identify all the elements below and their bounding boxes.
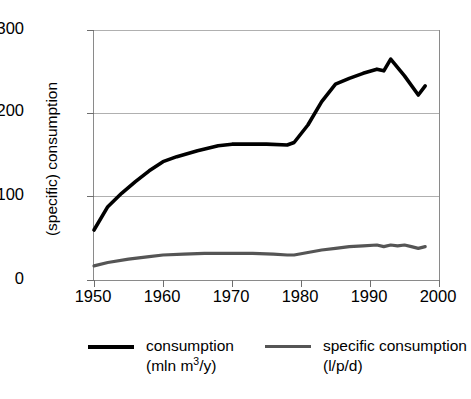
x-tick-label-1980: 1980 — [270, 288, 330, 305]
x-tick-1950 — [94, 280, 95, 287]
y-tick-label-0: 0 — [0, 270, 24, 286]
y-tick-label-300: 300 — [0, 20, 24, 36]
x-tick-label-1970: 1970 — [201, 288, 261, 305]
legend-units-pre-2: (l/p/d) — [323, 357, 363, 374]
x-tick-label-1990: 1990 — [339, 288, 399, 305]
line-specific-consumption — [94, 245, 425, 266]
x-tick-label-2000: 2000 — [408, 288, 468, 305]
x-tick-1960 — [163, 280, 164, 287]
y-tick-label-100: 100 — [0, 186, 24, 202]
legend-label-specific-consumption: specific consumption (l/p/d) — [323, 336, 467, 376]
y-tick-label-200: 200 — [0, 102, 24, 118]
x-tick-label-1950: 1950 — [63, 288, 123, 305]
series-lines — [94, 30, 439, 280]
legend-label-consumption-line2: (mln m3/y) — [146, 356, 234, 376]
y-tick-100 — [87, 196, 94, 197]
x-axis-line — [94, 280, 439, 281]
y-tick-200 — [87, 113, 94, 114]
x-tick-1980 — [301, 280, 302, 287]
chart-legend: consumption (mln m3/y) specific consumpt… — [0, 336, 471, 394]
x-tick-1990 — [370, 280, 371, 287]
legend-label-consumption-line1: consumption — [146, 336, 234, 356]
y-tick-300 — [87, 30, 94, 31]
y-tick-0 — [87, 280, 94, 281]
x-tick-2000 — [439, 280, 440, 287]
chart-figure: (specific) consumption 300 200 100 0 195… — [0, 0, 471, 399]
line-consumption — [94, 59, 425, 230]
legend-swatch-specific-consumption — [265, 345, 311, 348]
y-axis-title: (specific) consumption — [43, 29, 61, 289]
legend-label-specific-line2: (l/p/d) — [323, 356, 467, 376]
legend-units-pre: (mln m — [146, 357, 193, 374]
legend-label-consumption: consumption (mln m3/y) — [146, 336, 234, 376]
plot-area — [93, 30, 440, 280]
legend-label-specific-line1: specific consumption — [323, 336, 467, 356]
legend-units-post: /y) — [199, 357, 216, 374]
legend-swatch-consumption — [88, 345, 134, 349]
x-tick-1970 — [232, 280, 233, 287]
x-tick-label-1960: 1960 — [132, 288, 192, 305]
